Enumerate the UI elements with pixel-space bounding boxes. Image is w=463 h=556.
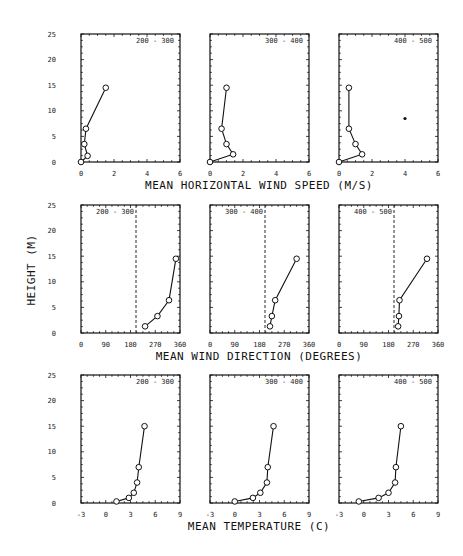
data-point-marker	[78, 159, 84, 165]
y-tick-label: 15	[48, 253, 56, 261]
x-tick-label: 180	[253, 341, 266, 349]
data-point-marker	[142, 324, 148, 330]
data-point-marker	[250, 495, 256, 501]
x-tick-label: 3	[257, 511, 261, 519]
y-tick-label: 0	[52, 330, 56, 338]
panel-1-1: 0246200 - 300	[78, 34, 182, 178]
panel-range-label: 300 - 400	[265, 37, 303, 45]
x-tick-label: 0	[79, 341, 83, 349]
panel-3-3: -30369400 - 500	[335, 375, 440, 519]
data-point-marker	[103, 85, 109, 91]
panel-range-label: 200 - 300	[136, 37, 174, 45]
x-tick-label: 6	[153, 511, 157, 519]
x-tick-label: 0	[337, 170, 341, 178]
x-tick-label: 270	[278, 341, 291, 349]
x-tick-label: 90	[360, 341, 368, 349]
data-point-marker	[85, 153, 91, 159]
x-tick-label: 4	[145, 170, 149, 178]
data-point-marker	[395, 324, 401, 330]
data-point-marker	[155, 313, 161, 319]
data-point-marker	[131, 490, 137, 496]
y-tick-label: 15	[48, 82, 56, 90]
panel-1-3: 0246400 - 500	[336, 34, 440, 178]
x-tick-label: 2	[112, 170, 116, 178]
data-point-marker	[126, 495, 132, 501]
data-point-marker	[336, 159, 342, 165]
data-point-marker	[82, 141, 88, 147]
data-point-marker	[398, 423, 404, 429]
y-tick-label: 20	[48, 397, 56, 405]
x-tick-label: 6	[411, 511, 415, 519]
data-point-marker	[356, 499, 362, 505]
data-point-marker	[166, 297, 172, 303]
data-point-marker	[294, 256, 300, 262]
data-point-marker	[396, 313, 402, 319]
profile-line	[117, 426, 145, 501]
panel-range-label: 400 - 500	[394, 378, 432, 386]
x-tick-label: 6	[178, 170, 182, 178]
x-tick-label: 90	[231, 341, 239, 349]
x-tick-label: 0	[208, 341, 212, 349]
data-point-marker	[359, 152, 365, 158]
panel-frame	[339, 375, 438, 503]
data-point-marker	[219, 126, 225, 132]
panel-frame	[210, 205, 309, 333]
panel-frame	[81, 205, 180, 333]
data-point-marker	[258, 490, 264, 496]
panel-3-2: -30369300 - 400	[206, 375, 311, 519]
panel-1-2: 0246300 - 400	[207, 34, 311, 178]
panel-range-label: 400 - 500	[394, 37, 432, 45]
x-tick-label: 6	[436, 170, 440, 178]
x-tick-label: 90	[102, 341, 110, 349]
profile-line	[235, 426, 274, 501]
data-point-marker	[376, 495, 382, 501]
x-tick-label: 0	[233, 511, 237, 519]
data-point-marker	[142, 423, 148, 429]
panel-frame	[81, 375, 180, 503]
data-point-marker	[83, 126, 89, 132]
data-point-marker	[346, 126, 352, 132]
x-axis-title: MEAN HORIZONTAL WIND SPEED (M/S)	[145, 179, 373, 192]
y-tick-label: 15	[48, 423, 56, 431]
x-tick-label: -3	[206, 511, 214, 519]
data-point-marker	[269, 313, 275, 319]
y-tick-label: 10	[48, 448, 56, 456]
x-tick-label: 2	[370, 170, 374, 178]
data-point-marker	[265, 464, 271, 470]
y-tick-label: 20	[48, 56, 56, 64]
data-point-marker	[173, 256, 179, 262]
profile-line	[81, 88, 106, 162]
y-tick-label: 10	[48, 278, 56, 286]
x-tick-label: 360	[432, 341, 445, 349]
y-tick-label: 10	[48, 107, 56, 115]
data-point-marker	[272, 297, 278, 303]
stray-mark	[403, 117, 406, 120]
x-tick-label: -3	[77, 511, 85, 519]
x-tick-label: 4	[274, 170, 278, 178]
panel-frame	[210, 375, 309, 503]
x-tick-label: 0	[79, 170, 83, 178]
data-point-marker	[271, 423, 277, 429]
x-tick-label: 6	[307, 170, 311, 178]
x-tick-label: 360	[303, 341, 316, 349]
x-tick-label: 3	[386, 511, 390, 519]
panel-3-1: -30369200 - 300	[77, 375, 182, 519]
panel-2-2: 090180270360300 - 400	[208, 205, 315, 349]
x-tick-label: -3	[335, 511, 343, 519]
data-point-marker	[230, 152, 236, 158]
y-tick-label: 5	[52, 474, 56, 482]
panel-2-1: 090180270360200 - 300	[79, 205, 186, 349]
x-tick-label: 0	[104, 511, 108, 519]
panel-range-label: 200 - 300	[96, 208, 134, 216]
data-point-marker	[114, 499, 120, 505]
y-tick-label: 0	[52, 500, 56, 508]
x-tick-label: 180	[124, 341, 137, 349]
x-tick-label: 180	[382, 341, 395, 349]
panel-frame	[339, 205, 438, 333]
x-tick-label: 0	[208, 170, 212, 178]
x-tick-label: 3	[128, 511, 132, 519]
y-tick-label: 20	[48, 227, 56, 235]
y-tick-label: 5	[52, 304, 56, 312]
data-point-marker	[392, 480, 398, 486]
x-tick-label: 9	[436, 511, 440, 519]
